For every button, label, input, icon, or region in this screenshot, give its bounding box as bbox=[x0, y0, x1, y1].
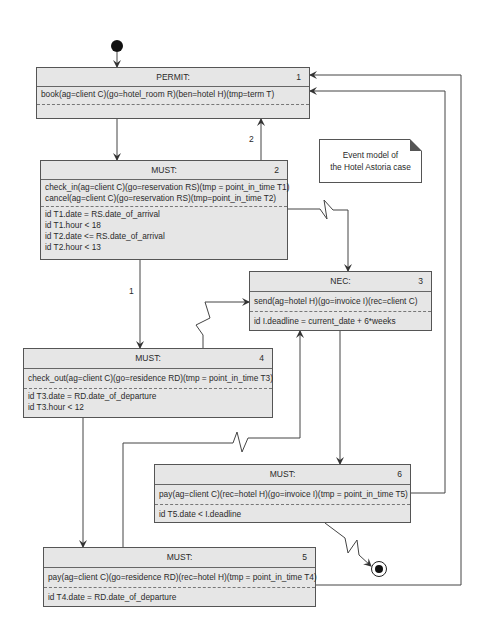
state-type: MUST: bbox=[151, 165, 177, 175]
note-fold-corner bbox=[410, 139, 422, 151]
final-state-dot bbox=[375, 565, 383, 573]
state-box-must-6[interactable]: MUST: 6 pay(ag=client C)(rec=hotel H)(go… bbox=[154, 464, 411, 523]
state-header: MUST: 4 bbox=[24, 349, 272, 369]
state-actions: book(ag=client C)(go=hotel_room R)(ben=h… bbox=[37, 87, 309, 104]
state-actions: pay(ag=client C)(rec=hotel H)(go=invoice… bbox=[155, 485, 410, 504]
constraint-line: id I.deadline = current_date + 6*weeks bbox=[254, 314, 427, 328]
state-box-permit-1[interactable]: PERMIT: 1 book(ag=client C)(go=hotel_roo… bbox=[36, 67, 310, 119]
state-type: MUST: bbox=[135, 353, 161, 363]
state-number: 6 bbox=[397, 465, 402, 484]
state-constraints bbox=[37, 104, 309, 120]
state-box-must-4[interactable]: MUST: 4 check_out(ag=client C)(go=reside… bbox=[23, 348, 273, 418]
edge-label-must2-must4: 1 bbox=[129, 286, 134, 296]
constraint-line: id T5.date < I.deadline bbox=[159, 507, 406, 521]
note-line-2: the Hotel Astoria case bbox=[320, 161, 421, 173]
state-header: NEC: 3 bbox=[250, 272, 431, 292]
state-type: MUST: bbox=[270, 469, 296, 479]
constraint-line: id T2.date <= RS.date_of_arrival bbox=[45, 231, 283, 242]
action-line: pay(ag=client C)(go=residence RD)(rec=ho… bbox=[48, 570, 311, 585]
state-number: 2 bbox=[274, 161, 279, 179]
note-line-1: Event model of bbox=[320, 149, 421, 161]
state-type: NEC: bbox=[330, 276, 350, 286]
constraint-line: id T2.hour < 13 bbox=[45, 242, 283, 253]
edge-label-must2-permit: 2 bbox=[249, 134, 254, 144]
constraint-line: id T1.date = RS.date_of_arrival bbox=[45, 209, 283, 220]
state-number: 1 bbox=[296, 68, 301, 86]
diagram-note: Event model of the Hotel Astoria case bbox=[319, 139, 422, 183]
state-header: MUST: 5 bbox=[44, 548, 315, 568]
constraint-line: id T3.hour < 12 bbox=[28, 402, 268, 413]
state-actions: send(ag=hotel H)(go=invoice I)(rec=clien… bbox=[250, 292, 431, 311]
state-number: 5 bbox=[302, 548, 307, 567]
constraint-line: id T3.date = RD.date_of_departure bbox=[28, 391, 268, 402]
state-type: PERMIT: bbox=[156, 72, 190, 82]
initial-state-node bbox=[111, 40, 123, 52]
action-line: book(ag=client C)(go=hotel_room R)(ben=h… bbox=[41, 89, 305, 100]
state-header: MUST: 6 bbox=[155, 465, 410, 485]
state-constraints: id T4.date = RD.date_of_departure bbox=[44, 587, 315, 607]
state-actions: check_out(ag=client C)(go=residence RD)(… bbox=[24, 369, 272, 388]
action-line: cancel(ag=client C)(go=reservation RS)(t… bbox=[45, 193, 283, 204]
constraint-line: id T1.hour < 18 bbox=[45, 220, 283, 231]
action-line: pay(ag=client C)(rec=hotel H)(go=invoice… bbox=[159, 487, 406, 502]
state-constraints: id T3.date = RD.date_of_departure id T3.… bbox=[24, 388, 272, 415]
state-constraints: id T5.date < I.deadline bbox=[155, 504, 410, 523]
state-constraints: id T1.date = RS.date_of_arrival id T1.ho… bbox=[41, 206, 287, 255]
state-actions: check_in(ag=client C)(go=reservation RS)… bbox=[41, 180, 287, 206]
state-header: MUST: 2 bbox=[41, 161, 287, 180]
constraint-line: id T4.date = RD.date_of_departure bbox=[48, 590, 311, 605]
state-header: PERMIT: 1 bbox=[37, 68, 309, 87]
state-box-must-5[interactable]: MUST: 5 pay(ag=client C)(go=residence RD… bbox=[43, 547, 316, 607]
final-state-node bbox=[371, 561, 387, 577]
action-line: check_in(ag=client C)(go=reservation RS)… bbox=[45, 182, 283, 193]
state-box-nec-3[interactable]: NEC: 3 send(ag=hotel H)(go=invoice I)(re… bbox=[249, 271, 432, 331]
state-number: 4 bbox=[259, 349, 264, 368]
state-type: MUST: bbox=[167, 552, 193, 562]
action-line: check_out(ag=client C)(go=residence RD)(… bbox=[28, 371, 268, 386]
state-number: 3 bbox=[418, 272, 423, 291]
state-constraints: id I.deadline = current_date + 6*weeks bbox=[250, 311, 431, 330]
state-box-must-2[interactable]: MUST: 2 check_in(ag=client C)(go=reserva… bbox=[40, 160, 288, 260]
state-actions: pay(ag=client C)(go=residence RD)(rec=ho… bbox=[44, 568, 315, 587]
action-line: send(ag=hotel H)(go=invoice I)(rec=clien… bbox=[254, 294, 427, 309]
